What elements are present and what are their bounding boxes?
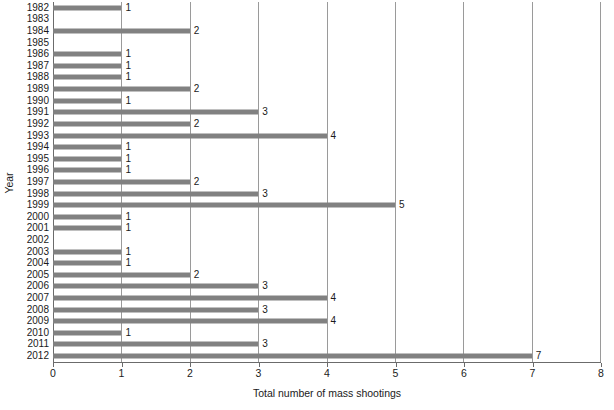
bar-value-label: 1 (121, 154, 131, 164)
bar (53, 179, 190, 184)
bar-row: 1 (53, 246, 600, 258)
y-axis-tick-label: 1983 (18, 14, 51, 26)
bar-value-label: 1 (121, 72, 131, 82)
bar-row: 1 (53, 211, 600, 223)
bar (53, 63, 121, 68)
x-axis-tick-label: 8 (598, 368, 604, 379)
bar-value-label: 2 (190, 177, 200, 187)
bar-row: 2 (53, 118, 600, 130)
y-axis-tick-label: 2009 (18, 315, 51, 327)
bar (53, 249, 121, 254)
bar-value-label: 1 (121, 212, 131, 222)
bar (53, 121, 190, 126)
bar (53, 191, 258, 196)
bar-row: 1 (53, 48, 600, 60)
bar (53, 52, 121, 57)
bar-value-label: 1 (121, 223, 131, 233)
x-axis-tick-label: 3 (256, 368, 262, 379)
y-axis-tick-label: 2002 (18, 234, 51, 246)
y-axis-tick-label: 1994 (18, 141, 51, 153)
bar-value-label: 3 (258, 107, 268, 117)
y-axis-tick-labels: 1982198319841985198619871988198919901991… (18, 2, 51, 362)
y-axis-tick-label: 2012 (18, 350, 51, 362)
y-axis-tick-label: 1995 (18, 153, 51, 165)
bar-row: 1 (53, 257, 600, 269)
bar (53, 156, 121, 161)
y-axis-title: Year (0, 0, 18, 365)
y-axis-tick-label: 2004 (18, 257, 51, 269)
y-axis-tick-label: 1991 (18, 106, 51, 118)
bar (53, 145, 121, 150)
bar-value-label: 3 (258, 281, 268, 291)
bar (53, 319, 327, 324)
bar-value-label: 1 (121, 165, 131, 175)
bar-row: 3 (53, 304, 600, 316)
bar-value-label: 1 (121, 3, 131, 13)
bar (53, 203, 395, 208)
bar (53, 214, 121, 219)
x-axis-tick-label: 6 (461, 368, 467, 379)
bar-row: 1 (53, 141, 600, 153)
y-axis-tick-label: 1984 (18, 25, 51, 37)
bar-row: 3 (53, 188, 600, 200)
bar-value-label: 4 (327, 316, 337, 326)
bar-value-label: 3 (258, 189, 268, 199)
bar (53, 307, 258, 312)
bar (53, 330, 121, 335)
y-axis-tick-label: 1993 (18, 130, 51, 142)
bar-row: 1 (53, 95, 600, 107)
bar-row: 2 (53, 269, 600, 281)
bar-row (53, 37, 600, 49)
y-axis-tick-label: 1999 (18, 199, 51, 211)
x-axis-tick-label: 4 (324, 368, 330, 379)
bar (53, 261, 121, 266)
gridline (600, 2, 601, 362)
bar (53, 354, 532, 359)
bar-value-label: 1 (121, 258, 131, 268)
bar-row: 2 (53, 176, 600, 188)
bar-value-label: 1 (121, 49, 131, 59)
y-axis-title-text: Year (3, 172, 15, 193)
bar (53, 272, 190, 277)
bar-row: 1 (53, 2, 600, 14)
bar-value-label: 2 (190, 26, 200, 36)
bar-value-label: 2 (190, 270, 200, 280)
y-axis-tick-label: 2006 (18, 281, 51, 293)
bar-row: 7 (53, 350, 600, 362)
bar (53, 342, 258, 347)
bar-value-label: 3 (258, 339, 268, 349)
y-axis-tick-label: 1986 (18, 48, 51, 60)
y-axis-tick-label: 2005 (18, 269, 51, 281)
bar-row: 3 (53, 339, 600, 351)
bar-row: 3 (53, 281, 600, 293)
y-axis-tick-label: 2001 (18, 223, 51, 235)
bar-row: 1 (53, 60, 600, 72)
y-axis-tick-label: 1997 (18, 176, 51, 188)
y-axis-tick-label: 1987 (18, 60, 51, 72)
x-axis-tick-label: 1 (119, 368, 125, 379)
y-axis-tick-label: 2008 (18, 304, 51, 316)
x-axis-tick-labels: 012345678 (53, 368, 601, 382)
bar-row: 4 (53, 315, 600, 327)
bar-value-label: 2 (190, 119, 200, 129)
bar-value-label: 2 (190, 84, 200, 94)
bar-row: 4 (53, 130, 600, 142)
bar-row: 1 (53, 153, 600, 165)
y-axis-tick-label: 2011 (18, 339, 51, 351)
bar-row: 1 (53, 165, 600, 177)
bar-row: 4 (53, 292, 600, 304)
y-axis-tick-label: 1996 (18, 165, 51, 177)
bar (53, 110, 258, 115)
y-axis-tick-label: 2010 (18, 327, 51, 339)
bar-row: 1 (53, 223, 600, 235)
bar-series: 1211121324111235111123434137 (53, 2, 600, 362)
bar-row: 2 (53, 25, 600, 37)
bar-row: 3 (53, 106, 600, 118)
bar-value-label: 4 (327, 293, 337, 303)
x-axis-tick-label: 7 (530, 368, 536, 379)
bar-row (53, 234, 600, 246)
y-axis-tick-label: 1990 (18, 95, 51, 107)
bar-value-label: 1 (121, 96, 131, 106)
bar-chart: Year 19821983198419851986198719881989199… (0, 0, 614, 410)
bar (53, 87, 190, 92)
